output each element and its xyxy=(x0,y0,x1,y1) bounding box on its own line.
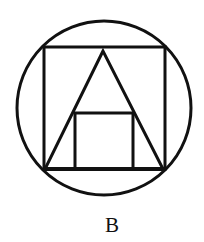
triangle xyxy=(45,51,163,169)
figure-label: B xyxy=(0,213,204,237)
geometric-diagram xyxy=(0,0,204,242)
outer-square xyxy=(44,47,165,169)
inner-square xyxy=(75,113,133,169)
